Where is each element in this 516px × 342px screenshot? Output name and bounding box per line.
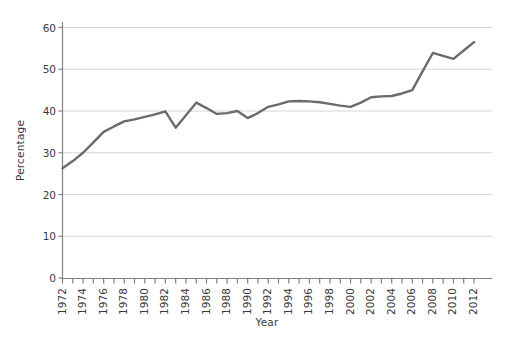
x-axis-tick-label: 1984 — [179, 281, 193, 315]
x-axis-tick-label: 1976 — [97, 281, 111, 315]
x-axis-tick-label: 2002 — [364, 281, 378, 315]
x-axis-tick-label: 1980 — [138, 281, 152, 315]
x-axis-title: Year — [0, 316, 516, 328]
x-axis-tick-label: 1990 — [241, 281, 255, 315]
x-axis-tick-label: 2012 — [467, 281, 481, 315]
x-axis-tick-label: 1994 — [282, 281, 296, 315]
x-axis-tick-label: 1996 — [302, 281, 316, 315]
x-axis-tick-label: 2000 — [344, 281, 358, 315]
x-axis-tick-label: 1982 — [158, 281, 172, 315]
x-axis-tick-label: 1972 — [56, 281, 70, 315]
x-axis-tick-label: 2010 — [446, 281, 460, 315]
x-axis-tick-label: 1978 — [117, 281, 131, 315]
x-axis-tick-label: 2008 — [426, 281, 440, 315]
x-axis-tick-label: 1998 — [323, 281, 337, 315]
x-axis-tick-label: 2006 — [405, 281, 419, 315]
x-axis-tick-label: 2004 — [385, 281, 399, 315]
x-axis-tick-label: 1974 — [76, 281, 90, 315]
x-axis-tick-label: 1988 — [220, 281, 234, 315]
line-chart: Percentage 0102030405060 197219741976197… — [0, 0, 516, 342]
x-axis-tick-label: 1992 — [261, 281, 275, 315]
x-axis-title-text: Year — [255, 316, 278, 328]
x-axis-tick-label: 1986 — [200, 281, 214, 315]
x-axis-tick-labels: 1972197419761978198019821984198619881990… — [0, 0, 516, 342]
